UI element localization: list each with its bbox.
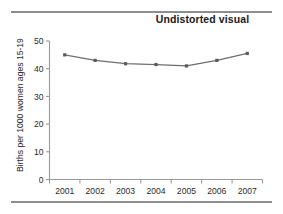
data-point-marker: [246, 52, 249, 55]
data-point-marker: [185, 64, 188, 67]
y-tick-label: 10: [34, 147, 44, 157]
y-tick-label: 20: [34, 119, 44, 129]
x-tick-label: 2001: [55, 186, 74, 196]
x-tick-label: 2005: [177, 186, 196, 196]
axis-spines: [50, 41, 263, 180]
x-tick-label: 2006: [207, 186, 226, 196]
data-point-marker: [63, 53, 66, 56]
y-tick-label: 50: [34, 36, 44, 46]
y-tick-label: 40: [34, 64, 44, 74]
bottom-divider-rule: [11, 201, 272, 203]
chart-figure: Undistorted visual Births per 1000 women…: [0, 0, 283, 214]
x-tick-label: 2007: [238, 186, 257, 196]
data-point-marker: [154, 63, 157, 66]
x-tick-label: 2004: [146, 186, 165, 196]
data-point-marker: [215, 59, 218, 62]
data-point-marker: [94, 59, 97, 62]
data-point-marker: [124, 62, 127, 65]
y-tick-label: 0: [39, 175, 44, 185]
y-tick-label: 30: [34, 92, 44, 102]
plot-area: 01020304050 2001200220032004200520062007: [0, 0, 283, 214]
x-tick-label: 2003: [116, 186, 135, 196]
y-axis-ticks: 01020304050: [34, 36, 50, 185]
x-tick-label: 2002: [86, 186, 105, 196]
x-axis-ticks: 2001200220032004200520062007: [50, 180, 263, 196]
